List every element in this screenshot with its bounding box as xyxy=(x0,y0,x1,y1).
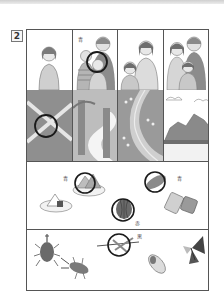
dragonfly-icon xyxy=(97,234,139,256)
panel-mountains[interactable] xyxy=(164,90,209,161)
color-label-blue: 青 xyxy=(78,35,83,42)
field-illustration xyxy=(27,90,72,161)
color-label-red-watermelon: 赤 xyxy=(135,219,140,226)
rhinoceros-beetle-icon xyxy=(34,234,60,266)
girl-illustration xyxy=(27,30,72,90)
food-section: 青 青 赤 xyxy=(27,162,208,230)
cicada-icon xyxy=(145,252,168,277)
panel-river[interactable] xyxy=(118,90,164,161)
girl-mother-illustration xyxy=(118,30,163,90)
mountain-illustration xyxy=(164,90,209,161)
top-band xyxy=(0,0,224,4)
insect-section: 黒 xyxy=(27,230,208,290)
people-row: 青 xyxy=(27,30,208,91)
panel-forest-path[interactable] xyxy=(73,90,119,161)
river-illustration xyxy=(118,90,163,161)
corn-icon xyxy=(144,172,168,192)
panel-girl-mother[interactable] xyxy=(118,30,164,90)
sandwich-plate-icon xyxy=(73,173,105,196)
panel-girl-alone[interactable] xyxy=(27,30,73,90)
family-three-illustration xyxy=(164,30,209,90)
stag-beetle-icon xyxy=(61,257,90,279)
panel-family-three[interactable] xyxy=(164,30,209,90)
color-label-blue-sandwich: 青 xyxy=(63,174,68,181)
worksheet-frame: 青 xyxy=(26,29,209,291)
butterfly-icon xyxy=(183,236,205,264)
insect-illustrations xyxy=(27,230,208,290)
panel-family-circled[interactable]: 青 xyxy=(73,30,119,90)
watermelon-icon xyxy=(112,199,134,221)
onigiri-plate-icon xyxy=(40,194,72,212)
question-number: 2 xyxy=(11,30,23,42)
panel-field-crossroad[interactable] xyxy=(27,90,73,161)
color-label-black-dragonfly: 黒 xyxy=(137,232,142,239)
bento-box-icon xyxy=(164,192,198,214)
landscape-row xyxy=(27,90,208,162)
color-label-blue-corn: 青 xyxy=(177,174,182,181)
food-illustrations xyxy=(27,162,208,229)
forest-illustration xyxy=(73,90,118,161)
